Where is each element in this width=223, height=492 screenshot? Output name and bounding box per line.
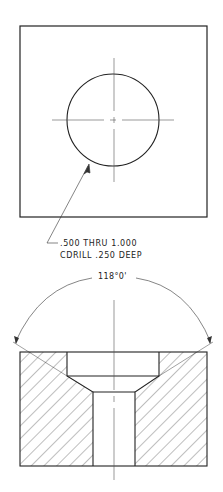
plate-outline xyxy=(20,26,207,217)
centerlines xyxy=(52,58,174,182)
section-hatch-right xyxy=(135,352,207,466)
section-hatch-left xyxy=(20,352,93,466)
arrowhead-icon xyxy=(207,336,212,344)
arrowhead-icon xyxy=(84,164,90,174)
angle-label: 118°0' xyxy=(96,272,129,281)
section-view xyxy=(13,278,213,480)
hole-note-line1: .500 THRU 1.000 xyxy=(60,238,142,250)
angle-dimension-arc xyxy=(15,278,211,343)
arrowhead-icon xyxy=(14,336,19,344)
hole-note: .500 THRU 1.000 CDRILL .250 DEEP xyxy=(60,238,142,262)
top-view xyxy=(20,26,207,243)
leader-line xyxy=(47,164,90,243)
hole-note-line2: CDRILL .250 DEEP xyxy=(60,250,142,262)
